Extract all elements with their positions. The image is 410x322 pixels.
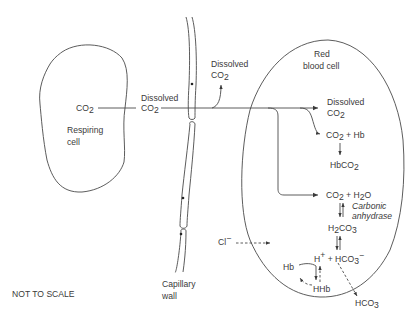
plasma-branch-arrow xyxy=(212,85,221,108)
respiring-cell-outline xyxy=(40,45,128,192)
rbc-dissolved-label: Dissolved xyxy=(327,97,364,107)
capillary-nucleus-3 xyxy=(180,233,183,236)
hb-label: Hb xyxy=(283,262,294,272)
rbc-dissolved-co2-label: CO2 xyxy=(327,108,345,120)
plasma-co2-label: CO2 xyxy=(211,70,229,82)
co2-transport-diagram: CO2 Respiring cell Dissolved CO2 Dissolv… xyxy=(0,0,410,322)
hemoglobin-buffer-arrows xyxy=(299,264,320,285)
rbc-label-2: blood cell xyxy=(303,61,339,71)
rbc-label-1: Red xyxy=(314,49,330,59)
equilibrium-arrows-1 xyxy=(340,203,343,217)
equilibrium-arrows-2 xyxy=(337,236,340,250)
hydration-branch-arrow xyxy=(268,108,318,195)
hb-branch-arrow xyxy=(300,108,320,134)
bicarbonate-out-arrow xyxy=(338,263,357,296)
respiring-cell-label-1: Respiring xyxy=(67,125,104,135)
capillary-wall-label-2: wall xyxy=(161,291,177,301)
enzyme-label-1: Carbonic xyxy=(352,201,387,211)
capillary-nucleus-2 xyxy=(182,197,185,200)
outside-hco3-label: HCO3 xyxy=(355,298,379,310)
interstitial-dissolved-label: Dissolved xyxy=(141,93,178,103)
respiring-cell-label-2: cell xyxy=(67,137,80,147)
enzyme-label-2: anhydrase xyxy=(352,211,392,221)
h2co3-label: H2CO3 xyxy=(328,223,357,235)
hplus-hco3-label: H+ + HCO3− xyxy=(314,250,364,266)
hhb-label: HHb xyxy=(313,284,330,294)
capillary-nucleus-1 xyxy=(191,83,194,86)
co2-plus-hb-label: CO2 + Hb xyxy=(326,130,365,142)
capillary-wall xyxy=(175,17,196,272)
interstitial-co2-label: CO2 xyxy=(141,103,159,115)
chloride-label: Cl− xyxy=(218,233,231,247)
respiring-cell-co2: CO2 xyxy=(76,103,94,115)
plasma-dissolved-label: Dissolved xyxy=(211,59,248,69)
hbco2-label: HbCO2 xyxy=(330,160,359,172)
not-to-scale-note: NOT TO SCALE xyxy=(12,289,75,299)
capillary-wall-label-1: Capillary xyxy=(162,279,196,289)
